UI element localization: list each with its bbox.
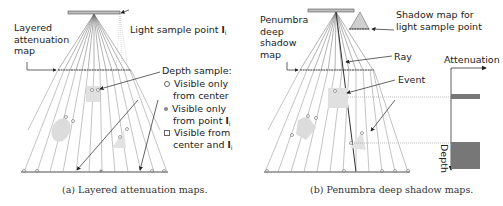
title-line: attenuation [14, 34, 69, 46]
legend-item-visible-both: Visible from center and li [164, 127, 232, 153]
attenuation-axis-label: Attenuation [444, 54, 500, 66]
legend-item-visible-point: Visible only from point li [164, 103, 230, 129]
light-source-bar [68, 11, 120, 14]
shadow-map-label: Shadow map for light sample point [396, 9, 482, 32]
light-sample-point-label: Light sample point li [130, 24, 226, 39]
filled-circle-icon [164, 107, 168, 111]
attenuation-bar-1 [451, 94, 480, 99]
penumbra-deep-shadow-map-label: Penumbra deep shadow map [260, 14, 308, 60]
depth-sample-header: Depth sample: [162, 65, 232, 77]
caption-b: (b) Penumbra deep shadow maps. [310, 184, 473, 195]
legend-item-visible-center: Visible only from center [164, 78, 229, 101]
event-label: Event [398, 74, 425, 86]
occluder-left [48, 115, 74, 144]
ray-label: Ray [394, 51, 412, 63]
depth-axis-label: Depth [439, 144, 450, 173]
title-line: map [14, 45, 69, 57]
hollow-circle-icon [164, 81, 170, 87]
layered-attenuation-map-label: Layered attenuation map [14, 22, 69, 57]
title-line: Layered [14, 22, 69, 34]
hollow-square-icon [164, 130, 170, 136]
occluder-right [112, 130, 126, 148]
caption-a: (a) Layered attenuation maps. [62, 184, 208, 195]
attenuation-bar-2 [451, 142, 480, 169]
